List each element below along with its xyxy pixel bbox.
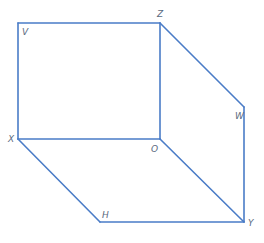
label-o: O [151, 144, 158, 154]
edge-o-y [160, 139, 244, 222]
label-y: Y [248, 218, 255, 228]
edges [18, 23, 244, 222]
edge-z-w [160, 23, 244, 107]
label-v: V [22, 27, 29, 37]
label-z: Z [156, 9, 164, 19]
edge-x-h [18, 139, 100, 222]
label-h: H [102, 210, 109, 220]
label-w: W [235, 111, 245, 121]
label-x: X [7, 134, 15, 144]
prism-diagram: V Z X O W Y H [0, 0, 264, 243]
